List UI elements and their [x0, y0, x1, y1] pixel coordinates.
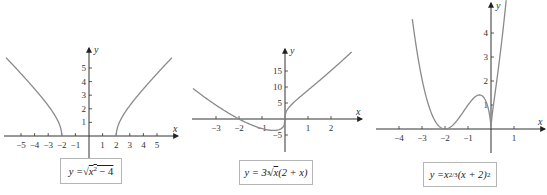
x-tick-label: −2 — [234, 123, 244, 133]
y-ticks: 1234 — [484, 28, 495, 110]
y-tick-label: 4 — [82, 77, 87, 87]
x-tick-label: 3 — [128, 140, 133, 150]
x-tick-label: 5 — [155, 140, 160, 150]
radicand: x2 − 4 — [89, 165, 114, 177]
x-tick-label: −3 — [417, 133, 427, 143]
x-tick-label: 4 — [141, 140, 146, 150]
y-axis-label: y — [289, 45, 295, 56]
x-tick-label: −4 — [30, 140, 40, 150]
chart-2-cuberoot: −3−2−112 −551015 x y — [192, 45, 362, 152]
y-tick-label: 10 — [273, 82, 283, 92]
equation-caption-3: y = x2/3(x + 2)2 — [423, 162, 497, 187]
y-tick-label: 5 — [82, 63, 87, 73]
equation-caption-1: y = √x2 − 4 — [60, 158, 122, 184]
caption-prefix: y = — [69, 166, 83, 177]
x-axis-label: x — [172, 123, 178, 134]
y-axis-label: y — [495, 0, 501, 11]
caption-prefix: y = — [430, 169, 444, 180]
caption-exponent: 2/3 — [449, 171, 458, 179]
x-tick-label: 2 — [329, 123, 334, 133]
function-curve — [412, 0, 506, 129]
x-tick-label: −5 — [16, 140, 26, 150]
x-tick-label: −3 — [43, 140, 53, 150]
x-tick-label: −1 — [71, 140, 81, 150]
equation-caption-2: y = 33√x (2 + x) — [239, 160, 313, 185]
y-tick-label: 15 — [273, 66, 283, 76]
x-tick-label: 2 — [114, 140, 119, 150]
y-ticks: 12345 — [82, 63, 93, 127]
y-axis-label: y — [93, 44, 99, 55]
x-tick-label: −2 — [57, 140, 67, 150]
x-axis-label: x — [537, 116, 543, 127]
x-tick-label: −3 — [211, 123, 221, 133]
x-axis-label: x — [355, 106, 361, 117]
caption-exponent-2: 2 — [487, 171, 491, 179]
caption-factor: (x + 2) — [458, 169, 487, 180]
x-tick-label: −1 — [463, 133, 473, 143]
x-tick-label: 1 — [512, 133, 517, 143]
x-tick-label: −4 — [394, 133, 404, 143]
caption-prefix: y = 3 — [245, 167, 267, 178]
y-tick-label: 5 — [278, 98, 283, 108]
radicand-rest: − 4 — [97, 166, 113, 177]
y-tick-label: −5 — [272, 130, 282, 140]
x-tick-label: 1 — [306, 123, 311, 133]
y-tick-label: 2 — [82, 104, 87, 114]
y-tick-label: 1 — [82, 117, 87, 127]
function-curve — [6, 58, 62, 136]
chart-3-power: −4−3−2−11 1234 x y — [376, 0, 545, 153]
curve-series — [412, 0, 506, 129]
x-tick-label: 1 — [100, 140, 105, 150]
y-tick-label: 3 — [82, 90, 87, 100]
y-tick-label: 2 — [484, 76, 489, 86]
y-tick-label: 3 — [484, 52, 489, 62]
y-tick-label: 4 — [484, 28, 489, 38]
chart-1-sqrt: −5−4−3−2−112345 12345 x y — [4, 44, 178, 165]
function-curve — [116, 58, 172, 136]
x-tick-label: −2 — [440, 133, 450, 143]
caption-suffix: (2 + x) — [278, 167, 307, 178]
